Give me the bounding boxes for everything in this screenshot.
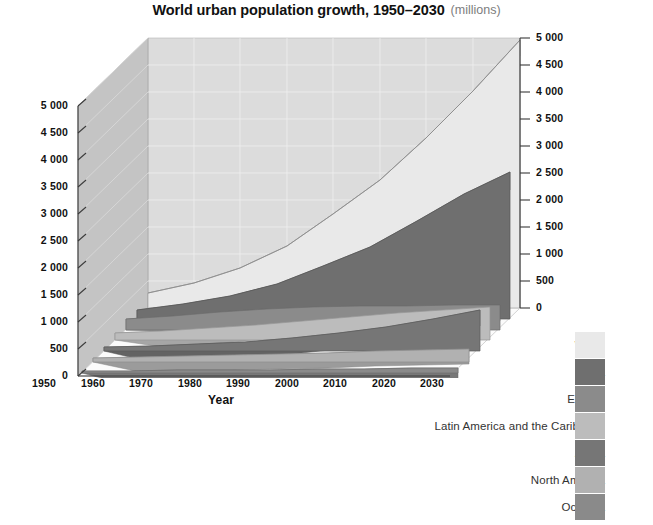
legend-swatch-world bbox=[575, 332, 605, 358]
y-tick-right: 3 000 bbox=[536, 139, 563, 151]
y-tick-left: 1 500 bbox=[10, 288, 68, 300]
y-tick-left: 2 000 bbox=[10, 261, 68, 273]
x-tick: 1970 bbox=[129, 377, 153, 389]
legend-swatch-africa bbox=[575, 440, 605, 466]
y-tick-right: 1 000 bbox=[536, 247, 563, 259]
y-tick-left: 4 500 bbox=[10, 126, 68, 138]
chart-svg bbox=[0, 18, 560, 378]
title-row: World urban population growth, 1950–2030… bbox=[0, 0, 653, 20]
unit-annotation: (millions) bbox=[451, 3, 501, 17]
y-tick-left: 3 500 bbox=[10, 180, 68, 192]
y-tick-left: 3 000 bbox=[10, 207, 68, 219]
y-tick-right: 5 000 bbox=[536, 31, 563, 43]
y-tick-right: 4 000 bbox=[536, 85, 563, 97]
y-tick-right: 3 500 bbox=[536, 112, 563, 124]
legend-swatch-europe bbox=[575, 386, 605, 412]
x-tick: 2010 bbox=[323, 377, 347, 389]
y-tick-left: 4 000 bbox=[10, 153, 68, 165]
y-tick-right: 2 000 bbox=[536, 193, 563, 205]
x-tick: 1950 bbox=[32, 377, 56, 389]
y-tick-left: 5 000 bbox=[10, 99, 68, 111]
y-axis-right-ticks bbox=[520, 38, 530, 308]
y-tick-left: 2 500 bbox=[10, 234, 68, 246]
x-tick: 1990 bbox=[226, 377, 250, 389]
x-tick: 2000 bbox=[275, 377, 299, 389]
legend-swatch-asia bbox=[575, 359, 605, 385]
chart-plot-area bbox=[0, 18, 560, 378]
legend-swatch-oceania bbox=[575, 494, 605, 520]
y-tick-right: 4 500 bbox=[536, 58, 563, 70]
legend-swatch-latin-america-and-the-caribbean bbox=[575, 413, 605, 439]
y-tick-right: 0 bbox=[536, 301, 542, 313]
x-axis-title: Year bbox=[208, 393, 234, 407]
x-tick: 1980 bbox=[178, 377, 202, 389]
y-tick-left: 1 000 bbox=[10, 315, 68, 327]
chart-legend: World Asia Europe Latin America and the … bbox=[380, 330, 653, 525]
legend-swatch-north-america bbox=[575, 467, 605, 493]
y-tick-right: 1 500 bbox=[536, 220, 563, 232]
chart-page: World urban population growth, 1950–2030… bbox=[0, 0, 653, 525]
page-title: World urban population growth, 1950–2030 bbox=[152, 2, 444, 18]
y-tick-right: 2 500 bbox=[536, 166, 563, 178]
y-tick-left: 500 bbox=[10, 342, 68, 354]
x-tick: 1960 bbox=[81, 377, 105, 389]
y-tick-right: 500 bbox=[536, 274, 554, 286]
